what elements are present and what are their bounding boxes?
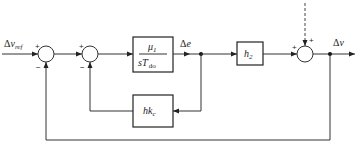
line-to-h2-block (201, 52, 237, 57)
svg-text:Δe: Δe (180, 38, 191, 49)
line-h2-to-sum3 (263, 52, 297, 57)
input-line (2, 52, 38, 57)
forward-transfer-block: μ1 sT'do (133, 37, 173, 72)
delta-e-label: Δe (180, 38, 191, 49)
svg-text:−: − (80, 63, 85, 72)
svg-text:Δv: Δv (333, 37, 344, 48)
line-sum1-to-sum2 (54, 52, 82, 57)
output-line (313, 52, 355, 57)
output-label: Δv (333, 37, 344, 48)
svg-text:+: + (292, 43, 297, 52)
summing-junction-3: + + (292, 36, 314, 62)
svg-text:Δvref: Δvref (4, 38, 23, 51)
svg-text:+: + (79, 42, 84, 51)
output-gain-block: h2 (237, 42, 263, 65)
inner-feedback-block: hkc (133, 95, 173, 127)
outer-feedback-path (44, 54, 331, 140)
disturbance-input (303, 3, 308, 46)
svg-text:+: + (309, 36, 314, 45)
line-delta-e (173, 52, 201, 57)
block-diagram: Δvref + − + − μ1 sT'do Δe (0, 0, 357, 149)
svg-text:+: + (35, 42, 40, 51)
svg-text:−: − (36, 63, 41, 72)
input-label: Δvref (4, 38, 23, 51)
line-sum2-to-forward-block (98, 52, 133, 57)
